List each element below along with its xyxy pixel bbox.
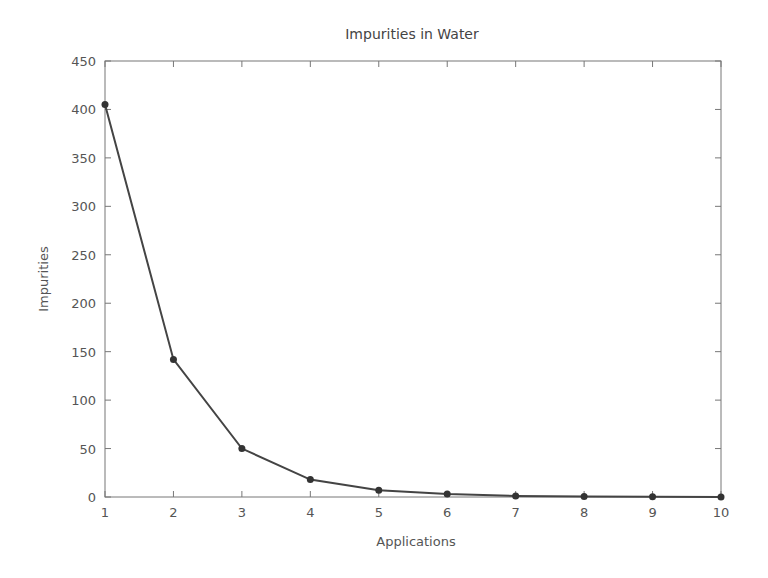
data-point-marker [444,491,451,498]
plot-border [105,61,721,497]
x-tick-label: 8 [580,505,588,520]
chart-title: Impurities in Water [345,26,479,42]
y-tick-label: 200 [71,296,96,311]
data-point-marker [170,356,177,363]
x-tick-label: 10 [713,505,730,520]
y-axis-label: Impurities [36,246,51,312]
x-tick-label: 7 [512,505,520,520]
x-axis-label: Applications [376,534,456,549]
x-tick-label: 6 [443,505,451,520]
y-tick-label: 0 [88,490,96,505]
data-series [102,101,725,500]
line-chart: Impurities in Water 05010015020025030035… [0,0,768,578]
data-point-marker [238,445,245,452]
y-tick-label: 350 [71,151,96,166]
x-tick-label: 5 [375,505,383,520]
y-tick-label: 450 [71,54,96,69]
series-line [105,105,721,497]
data-point-marker [649,493,656,500]
data-point-marker [581,493,588,500]
x-tick-label: 2 [169,505,177,520]
data-point-marker [718,493,725,500]
x-tick-label: 9 [648,505,656,520]
y-tick-label: 300 [71,199,96,214]
data-point-marker [307,476,314,483]
y-tick-label: 150 [71,345,96,360]
plot-frame [105,61,721,497]
y-tick-label: 100 [71,393,96,408]
x-tick-label: 3 [238,505,246,520]
y-tick-label: 50 [79,442,96,457]
data-point-marker [375,487,382,494]
x-tick-label: 1 [101,505,109,520]
data-point-marker [102,101,109,108]
y-tick-label: 400 [71,102,96,117]
y-axis-ticks: 050100150200250300350400450 [71,54,721,505]
y-tick-label: 250 [71,248,96,263]
x-axis-ticks: 12345678910 [101,61,729,520]
data-point-marker [512,493,519,500]
x-tick-label: 4 [306,505,314,520]
